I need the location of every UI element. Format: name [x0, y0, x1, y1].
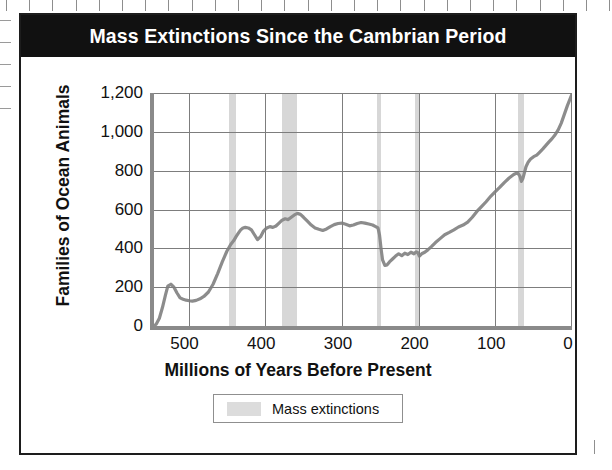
legend-swatch-mass-extinctions: [227, 402, 261, 416]
figure-frame: Mass Extinctions Since the Cambrian Peri…: [19, 13, 577, 455]
vertical-gridline: [189, 93, 190, 326]
chart-body: Families of Ocean Animals 02004006008001…: [21, 57, 575, 457]
ruler-tick: [192, 0, 193, 11]
ruler-tick: [168, 0, 169, 11]
x-axis-tick-label: 100: [477, 334, 505, 354]
plot-inner: [154, 93, 572, 326]
vertical-gridline: [342, 93, 343, 326]
x-axis-tick-label: 300: [324, 334, 352, 354]
y-axis-tick-label: 800: [115, 161, 143, 181]
page-title: Mass Extinctions Since the Cambrian Peri…: [89, 25, 506, 48]
page-left-ruler-marks: [0, 12, 12, 122]
ruler-tick: [52, 0, 53, 11]
ruler-tick: [0, 64, 11, 65]
x-axis-tick-label: 400: [247, 334, 275, 354]
x-axis-tick-label: 0: [563, 334, 572, 354]
y-axis-tick-labels: 02004006008001,0001,200: [77, 93, 143, 326]
y-axis-tick-label: 1,200: [100, 83, 143, 103]
ruler-tick: [308, 0, 309, 11]
vertical-gridline: [571, 93, 572, 326]
ruler-tick: [470, 0, 471, 11]
y-axis-tick-label: 400: [115, 238, 143, 258]
ruler-tick: [540, 0, 541, 11]
ruler-tick: [354, 0, 355, 11]
chart-title-banner: Mass Extinctions Since the Cambrian Peri…: [21, 15, 575, 57]
page-right-edge-mark: [594, 440, 595, 454]
horizontal-gridline: [154, 132, 572, 133]
ruler-tick: [586, 0, 587, 11]
page-top-ruler-marks: [0, 0, 612, 12]
ruler-tick: [331, 0, 332, 11]
ruler-tick: [516, 0, 517, 11]
ruler-tick: [261, 0, 262, 11]
ruler-tick: [424, 0, 425, 11]
y-axis-tick-label: 1,000: [100, 122, 143, 142]
ruler-tick: [76, 0, 77, 11]
x-axis-title: Millions of Years Before Present: [21, 360, 575, 381]
ruler-tick: [400, 0, 401, 11]
ruler-tick: [284, 0, 285, 11]
x-axis-tick-label: 500: [170, 334, 198, 354]
horizontal-gridline: [154, 171, 572, 172]
vertical-gridline: [419, 93, 420, 326]
ruler-tick: [145, 0, 146, 11]
ruler-tick: [0, 86, 11, 87]
chart-legend: Mass extinctions: [213, 394, 403, 423]
ruler-tick: [609, 0, 610, 11]
horizontal-gridline: [154, 93, 572, 94]
ruler-tick: [0, 20, 11, 21]
ruler-tick: [0, 42, 11, 43]
plot-area: [150, 93, 572, 330]
y-axis-tick-label: 0: [134, 316, 143, 336]
y-axis-tick-label: 200: [115, 277, 143, 297]
ruler-tick: [563, 0, 564, 11]
ruler-tick: [493, 0, 494, 11]
ruler-tick: [29, 0, 30, 11]
vertical-gridline: [265, 93, 266, 326]
ruler-tick: [238, 0, 239, 11]
ruler-tick: [99, 0, 100, 11]
x-axis-tick-label: 200: [400, 334, 428, 354]
y-axis-tick-label: 600: [115, 200, 143, 220]
ruler-tick: [215, 0, 216, 11]
legend-label-mass-extinctions: Mass extinctions: [272, 401, 379, 417]
ruler-tick: [377, 0, 378, 11]
y-axis-title: Families of Ocean Animals: [53, 83, 74, 308]
vertical-gridline: [495, 93, 496, 326]
ruler-tick: [447, 0, 448, 11]
ruler-tick: [0, 108, 11, 109]
ruler-tick: [122, 0, 123, 11]
ruler-tick: [6, 0, 7, 11]
horizontal-gridline: [154, 248, 572, 249]
horizontal-gridline: [154, 287, 572, 288]
horizontal-gridline: [154, 210, 572, 211]
x-axis-tick-labels: 5004003002001000: [150, 334, 572, 358]
